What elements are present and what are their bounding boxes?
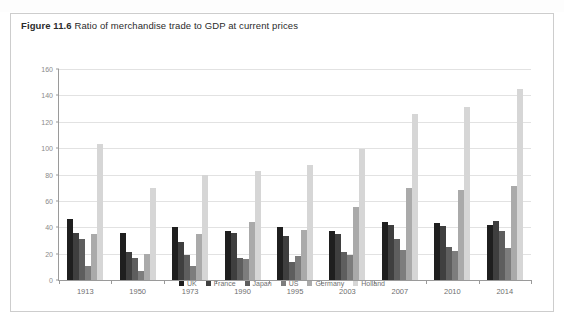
legend-item-france[interactable]: France [206, 280, 236, 287]
bar-group-2003 [321, 69, 373, 280]
figure-title: Figure 11.6 Ratio of merchandise trade t… [21, 20, 298, 31]
legend-item-germany[interactable]: Germany [307, 280, 344, 287]
bar-holland-2010 [464, 107, 470, 280]
x-tick-label-1990: 1990 [234, 287, 251, 296]
bar-group-2014 [479, 69, 531, 280]
legend-item-us[interactable]: US [281, 280, 299, 287]
bar-group-1973 [164, 69, 216, 280]
chart-area: 020406080100120140160 191319501973199019… [11, 37, 555, 313]
y-tick-label-60: 60 [45, 197, 53, 204]
legend-swatch-germany-icon [307, 281, 312, 286]
y-tick-label-40: 40 [45, 224, 53, 231]
legend-label-france: France [214, 280, 236, 287]
legend-label-holland: Holland [361, 280, 385, 287]
y-tick-label-120: 120 [41, 118, 53, 125]
x-tick-label-2010: 2010 [444, 287, 461, 296]
bar-group-2007 [374, 69, 426, 280]
y-tick-label-80: 80 [45, 171, 53, 178]
x-tick-label-2007: 2007 [392, 287, 409, 296]
bar-holland-1995 [307, 165, 313, 280]
y-tick-label-100: 100 [41, 145, 53, 152]
x-tick-label-1950: 1950 [129, 287, 146, 296]
figure-number: Figure 11.6 [21, 20, 72, 31]
bar-holland-1990 [255, 171, 261, 280]
bar-group-1950 [111, 69, 163, 280]
bar-holland-2014 [517, 89, 523, 280]
figure-card: Figure 11.6 Ratio of merchandise trade t… [10, 13, 554, 312]
legend-swatch-uk-icon [179, 281, 184, 286]
bar-holland-2007 [412, 114, 418, 280]
page-top-margin [0, 0, 564, 12]
legend-swatch-holland-icon [353, 281, 358, 286]
y-tick-label-140: 140 [41, 92, 53, 99]
x-tick-label-1973: 1973 [182, 287, 199, 296]
bar-group-2010 [426, 69, 478, 280]
legend-label-japan: Japan [253, 280, 272, 287]
plot-region: 020406080100120140160 191319501973199019… [59, 69, 531, 280]
legend-label-germany: Germany [315, 280, 344, 287]
y-tick-label-20: 20 [45, 250, 53, 257]
bar-holland-1950 [150, 188, 156, 280]
x-tick-label-1913: 1913 [77, 287, 94, 296]
y-tick-label-160: 160 [41, 66, 53, 73]
x-tick-label-1995: 1995 [287, 287, 304, 296]
bar-group-1995 [269, 69, 321, 280]
legend-swatch-us-icon [281, 281, 286, 286]
legend-swatch-japan-icon [245, 281, 250, 286]
bar-holland-2003 [359, 149, 365, 280]
legend-label-uk: UK [187, 280, 197, 287]
chart-legend: UKFranceJapanUSGermanyHolland [11, 280, 553, 287]
legend-label-us: US [289, 280, 299, 287]
bar-holland-1913 [97, 144, 103, 280]
legend-item-uk[interactable]: UK [179, 280, 197, 287]
x-tick-label-2014: 2014 [496, 287, 513, 296]
x-tick-label-2003: 2003 [339, 287, 356, 296]
legend-swatch-france-icon [206, 281, 211, 286]
figure-title-text: Ratio of merchandise trade to GDP at cur… [74, 20, 298, 31]
legend-item-holland[interactable]: Holland [353, 280, 385, 287]
bar-holland-1973 [202, 175, 208, 281]
legend-item-japan[interactable]: Japan [245, 280, 272, 287]
bar-group-1913 [59, 69, 111, 280]
bar-group-1990 [216, 69, 268, 280]
